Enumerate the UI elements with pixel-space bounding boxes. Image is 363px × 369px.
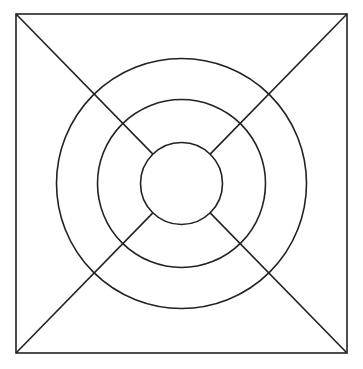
diagonal-top-right (210, 14, 347, 154)
diagonal-bottom-left (16, 213, 153, 353)
concentric-target-diagram (0, 0, 363, 369)
inner-circle (141, 143, 223, 225)
middle-circle (98, 100, 266, 268)
outer-circle (57, 59, 307, 309)
diagonal-top-left (16, 14, 153, 154)
diagonal-bottom-right (210, 213, 347, 353)
